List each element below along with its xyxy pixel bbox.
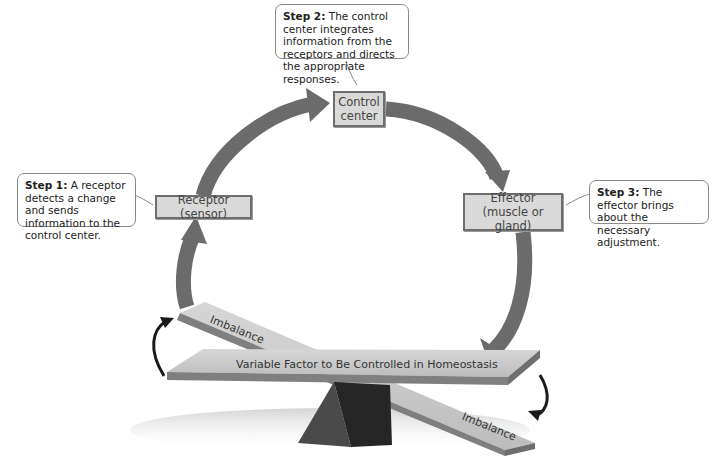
control-center-line2: center xyxy=(341,109,378,123)
control-center-line1: Control xyxy=(338,95,380,109)
arrow-effector-to-plank xyxy=(480,232,525,361)
callout-step-3: Step 3: The effector brings about the ne… xyxy=(589,180,709,224)
step-1-label: Step 1: xyxy=(25,179,67,191)
step-3-label: Step 3: xyxy=(597,186,639,198)
arrow-control-to-effector xyxy=(386,109,510,192)
variable-factor-label: Variable Factor to Be Controlled in Home… xyxy=(236,358,498,371)
effector-line1: Effector xyxy=(491,191,536,205)
control-center-box: Control center xyxy=(333,91,385,127)
callout-step-1: Step 1: A receptor detects a change and … xyxy=(17,173,136,227)
effector-line2: (muscle or gland) xyxy=(465,205,561,233)
callout-step-2: Step 2: The control center integrates in… xyxy=(275,4,409,59)
homeostasis-diagram: Step 1: A receptor detects a change and … xyxy=(0,0,717,467)
arrow-receptor-to-control xyxy=(203,88,330,196)
small-arrow-left-up xyxy=(154,317,174,376)
arrow-plank-to-receptor xyxy=(181,216,207,307)
step-2-label: Step 2: xyxy=(283,10,325,22)
small-arrow-right-down xyxy=(528,375,547,421)
callout-tail-step3 xyxy=(566,194,590,205)
effector-box: Effector (muscle or gland) xyxy=(463,193,563,231)
receptor-box: Receptor (sensor) xyxy=(155,195,252,219)
receptor-label: Receptor (sensor) xyxy=(157,193,250,221)
